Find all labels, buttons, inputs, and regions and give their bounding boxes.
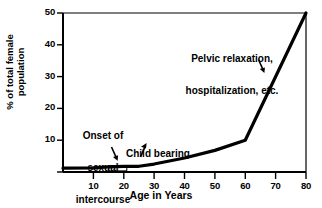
chart-figure: 50 40 30 20 10 10 20 30 40 50 60 70 80 %… (0, 0, 322, 208)
annotation-child-bearing: Child bearing (126, 128, 212, 181)
y-tick-label-40: 40 (38, 39, 55, 49)
annotation-onset-line-3: intercourse (61, 195, 145, 206)
annotation-pelvic-line-1: Pelvic relaxation, (158, 54, 306, 65)
y-tick-label-10: 10 (38, 134, 55, 144)
x-axis-label: Age in Years (0, 190, 322, 201)
y-axis-label: % of total female population (5, 17, 33, 127)
y-tick-label-30: 30 (38, 71, 55, 81)
y-axis-label-line-2: population (16, 17, 27, 127)
y-tick-label-20: 20 (38, 102, 55, 112)
y-tick-label-50: 50 (38, 7, 55, 17)
annotation-pelvic-relaxation: Pelvic relaxation, hospitalization, etc. (158, 33, 306, 118)
annotation-pelvic-line-2: hospitalization, etc. (158, 86, 306, 97)
annotation-child-bearing-line-1: Child bearing (126, 149, 212, 160)
